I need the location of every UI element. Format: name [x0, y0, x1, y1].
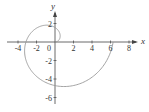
y-tick-label: -2 — [45, 57, 52, 66]
x-tick-label: -4 — [15, 44, 22, 53]
y-tick-label: 2 — [48, 20, 52, 29]
x-tick-label: -2 — [33, 44, 40, 53]
y-axis-arrow-icon — [53, 11, 57, 17]
origin-label: 0 — [47, 44, 51, 53]
y-axis-label: y — [50, 1, 55, 11]
y-tick-label: -6 — [45, 94, 52, 103]
x-axis-arrow-icon — [132, 40, 138, 44]
spiral-curve — [25, 25, 114, 86]
x-tick-label: 6 — [109, 44, 113, 53]
axes — [7, 11, 138, 104]
x-tick-label: 4 — [90, 44, 94, 53]
spiral-plot: -4-224682-2-4-60 x y — [0, 0, 149, 112]
y-tick-label: -4 — [45, 75, 52, 84]
x-tick-label: 2 — [72, 44, 76, 53]
x-axis-label: x — [140, 36, 145, 46]
x-tick-label: 8 — [127, 44, 131, 53]
